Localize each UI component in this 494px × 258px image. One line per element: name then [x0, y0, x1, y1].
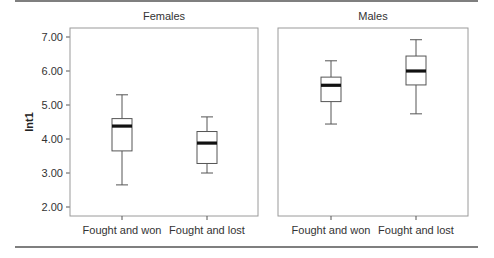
boxplot-chart: Int1 2.003.004.005.006.007.00 Females Fo… — [0, 0, 494, 258]
panel-females: Females Fought and won Fought and lost — [70, 10, 258, 236]
category-label: Fought and lost — [169, 224, 245, 236]
y-tick-label: 5.00 — [42, 99, 63, 111]
panel-title-females: Females — [143, 10, 186, 22]
y-axis: 2.003.004.005.006.007.00 — [42, 31, 70, 213]
panel-title-males: Males — [358, 10, 388, 22]
category-label: Fought and won — [292, 224, 371, 236]
y-tick-label: 2.00 — [42, 201, 63, 213]
y-tick-label: 4.00 — [42, 133, 63, 145]
panel-frame — [278, 28, 468, 216]
y-tick-label: 6.00 — [42, 65, 63, 77]
y-axis-label: Int1 — [23, 112, 35, 132]
panel-frame — [70, 28, 258, 216]
iqr-box — [197, 132, 217, 164]
y-tick-label: 7.00 — [42, 31, 63, 43]
category-label: Fought and lost — [378, 224, 454, 236]
iqr-box — [321, 77, 341, 101]
iqr-box — [112, 119, 132, 151]
panel-males: Males Fought and won Fought and lost — [278, 10, 468, 236]
category-label: Fought and won — [83, 224, 162, 236]
y-tick-label: 3.00 — [42, 167, 63, 179]
